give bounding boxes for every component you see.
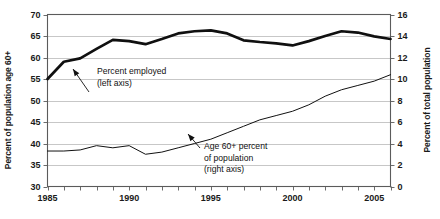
x-tick-label: 2000 (282, 193, 302, 203)
annotation-text-line: Age 60+ percent (204, 141, 268, 151)
y-tick-label-right: 6 (398, 117, 403, 127)
y-tick-label-right: 16 (398, 10, 408, 20)
y-tick-label-left: 70 (30, 10, 40, 20)
y-tick-label-left: 30 (30, 182, 40, 192)
y-tick-label-left: 65 (30, 31, 40, 41)
x-tick-label: 1990 (119, 193, 139, 203)
y-tick-label-right: 14 (398, 31, 408, 41)
y-axis-right-title: Percent of total population (422, 48, 432, 153)
annotation-text-line: of population (204, 153, 253, 163)
y-axis-left-title: Percent of population age 60+ (3, 51, 13, 169)
y-tick-label-right: 0 (398, 182, 403, 192)
y-tick-label-left: 55 (30, 74, 40, 84)
y-tick-label-left: 45 (30, 117, 40, 127)
y-tick-label-left: 50 (30, 96, 40, 106)
y-axis-left-tick-labels: 303540455055606570 (30, 10, 40, 192)
annotation-text-line: (right axis) (204, 164, 244, 174)
y-tick-label-right: 2 (398, 160, 403, 170)
chart-container: 19851990199520002005 303540455055606570 … (0, 0, 440, 219)
y-axis-right-title-text: Percent of total population (422, 48, 432, 153)
annotation-text-line: Percent employed (97, 66, 166, 76)
annotation-text-line: (left axis) (97, 78, 132, 88)
line-chart: 19851990199520002005 303540455055606570 … (0, 0, 440, 219)
y-tick-label-left: 40 (30, 139, 40, 149)
y-axis-left-title-text: Percent of population age 60+ (3, 51, 13, 169)
y-tick-label-right: 12 (398, 53, 408, 63)
x-tick-label: 1995 (201, 193, 221, 203)
y-tick-label-left: 35 (30, 160, 40, 170)
y-tick-label-right: 4 (398, 139, 403, 149)
y-tick-label-right: 8 (398, 96, 403, 106)
y-tick-label-left: 60 (30, 53, 40, 63)
y-tick-label-right: 10 (398, 74, 408, 84)
x-tick-label: 2005 (364, 193, 384, 203)
x-tick-label: 1985 (37, 193, 57, 203)
